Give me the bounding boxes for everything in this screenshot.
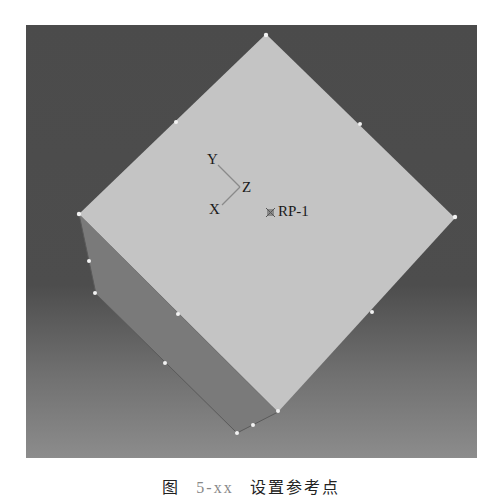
figure-caption: 图 5-xx 设置参考点 — [0, 474, 502, 498]
triad-z-label: Z — [242, 179, 251, 196]
caption-title: 设置参考点 — [250, 479, 340, 496]
reference-point-label: RP-1 — [278, 203, 309, 220]
caption-number: 5-xx — [196, 479, 233, 496]
triad-y-label: Y — [207, 151, 218, 168]
reference-point-icon[interactable] — [266, 208, 275, 217]
triad-x-label: X — [209, 201, 220, 218]
cube-top-face[interactable] — [79, 34, 455, 412]
caption-prefix: 图 — [162, 479, 180, 496]
